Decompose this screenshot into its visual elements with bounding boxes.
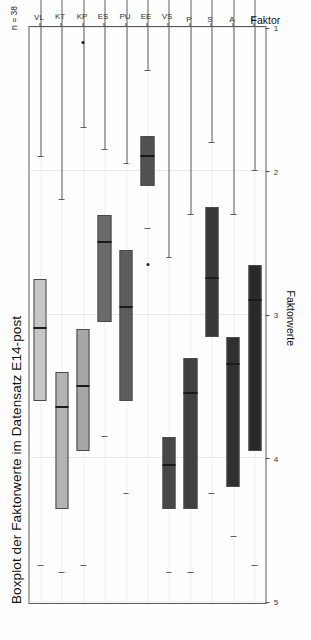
value-axis-tick	[265, 315, 269, 316]
value-axis-title: Faktorwerte	[284, 291, 296, 346]
category-axis-tick-label: VS	[162, 0, 171, 22]
box-iqr	[248, 265, 261, 452]
whisker-cap	[144, 228, 150, 229]
category-axis-tick-label: A	[227, 0, 236, 22]
median-line	[183, 392, 196, 394]
whisker-cap	[80, 127, 86, 128]
whisker-line	[233, 0, 234, 215]
category-axis-title: Faktor	[250, 14, 280, 26]
median-line	[55, 406, 68, 408]
category-axis-tick-label: KP	[77, 0, 86, 22]
box-iqr	[226, 337, 239, 488]
box-iqr	[183, 358, 196, 509]
category-axis-tick-label: VL	[34, 0, 43, 22]
whisker-cap	[123, 493, 129, 494]
whisker-line	[168, 0, 169, 258]
median-line	[119, 306, 132, 308]
whisker-line	[190, 0, 191, 215]
category-axis-tick-label: KT	[55, 0, 64, 22]
outlier-point	[81, 41, 84, 44]
value-axis-tick	[265, 602, 269, 603]
median-line	[162, 464, 175, 466]
median-line	[97, 241, 110, 243]
category-axis-tick-label: ES	[98, 0, 107, 22]
gridline-horizontal	[147, 27, 148, 603]
box-iqr	[162, 437, 175, 509]
box-iqr	[205, 207, 218, 336]
category-axis-tick-label: PU	[120, 0, 129, 22]
chart-stage: Boxplot der Faktorwerte im Datensatz E14…	[0, 0, 311, 640]
whisker-line	[61, 0, 62, 200]
value-axis-tick-label: 4	[271, 440, 280, 480]
value-axis-tick-label: 3	[271, 296, 280, 336]
category-axis-tick	[39, 23, 40, 27]
whisker-cap	[144, 70, 150, 71]
plot-area	[28, 26, 266, 604]
whisker-cap	[208, 142, 214, 143]
box-iqr	[97, 215, 110, 323]
box-iqr	[55, 372, 68, 508]
value-axis-tick-label: 5	[271, 583, 280, 623]
category-axis-tick-label: P	[184, 0, 193, 22]
box-iqr	[140, 136, 153, 186]
box-iqr	[33, 279, 46, 401]
category-axis-tick	[60, 23, 61, 27]
median-line	[226, 363, 239, 365]
category-axis-tick	[146, 23, 147, 27]
whisker-cap	[166, 257, 172, 258]
whisker-cap	[58, 572, 64, 573]
whisker-cap	[37, 565, 43, 566]
whisker-cap	[80, 565, 86, 566]
whisker-cap	[101, 149, 107, 150]
value-axis-tick	[265, 459, 269, 460]
outlier-point	[146, 263, 149, 266]
sample-size-annotation: n = 38	[8, 6, 18, 30]
median-line	[76, 385, 89, 387]
value-axis-tick	[265, 28, 269, 29]
chart-page: Boxplot der Faktorwerte im Datensatz E14…	[0, 0, 311, 640]
whisker-cap	[58, 199, 64, 200]
category-axis-tick	[82, 23, 83, 27]
category-axis-tick-label: EE	[141, 0, 150, 22]
box-iqr	[119, 250, 132, 401]
median-line	[140, 155, 153, 157]
median-line	[248, 299, 261, 301]
whisker-cap	[187, 572, 193, 573]
whisker-cap	[37, 156, 43, 157]
whisker-cap	[230, 214, 236, 215]
category-axis-tick	[167, 23, 168, 27]
whisker-cap	[101, 436, 107, 437]
whisker-cap	[123, 163, 129, 164]
whisker-cap	[187, 214, 193, 215]
whisker-cap	[208, 493, 214, 494]
whisker-cap	[166, 572, 172, 573]
category-axis-tick-label: S	[205, 0, 214, 22]
whisker-cap	[251, 565, 257, 566]
whisker-cap	[230, 536, 236, 537]
page-title: Boxplot der Faktorwerte im Datensatz E14…	[8, 0, 23, 640]
category-axis-tick	[103, 23, 104, 27]
median-line	[205, 277, 218, 279]
median-line	[33, 327, 46, 329]
whisker-cap	[251, 171, 257, 172]
box-iqr	[76, 329, 89, 451]
category-axis-tick	[125, 23, 126, 27]
value-axis-tick-label: 2	[271, 153, 280, 193]
value-axis-tick	[265, 172, 269, 173]
